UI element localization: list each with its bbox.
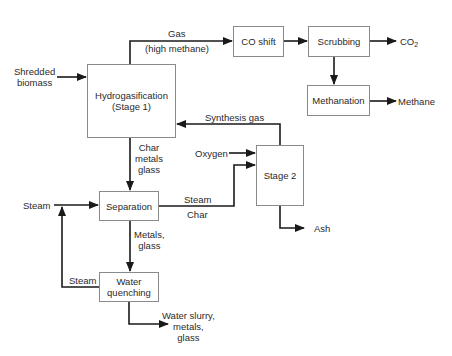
steam-recycle-label: Steam [69,275,96,286]
ash-label: Ash [314,223,330,234]
hydrogasification-box: Hydrogasification (Stage 1) [87,64,176,138]
flow-connectors [0,0,452,356]
hydrogasification-label-line2: (Stage 1) [95,101,168,112]
arrow-synthesis-gas [177,124,280,145]
char-metals-glass-label: Char metals glass [135,142,163,175]
synthesis-gas-label: Synthesis gas [205,112,264,123]
water-quenching-box: Water quenching [99,272,159,302]
high-methane-label: (high methane) [145,43,209,54]
co-shift-box: CO shift [233,26,284,57]
methanation-label: Methanation [312,95,364,106]
process-flow-diagram: Hydrogasification (Stage 1) CO shift Scr… [0,0,452,356]
separation-box: Separation [99,191,159,221]
hydrogasification-label-line1: Hydrogasification [95,90,168,101]
co-shift-label: CO shift [241,36,275,47]
scrubbing-label: Scrubbing [318,36,361,47]
co2-label: CO2 [400,36,418,50]
char-to-stage2-label: Char [187,209,208,220]
scrubbing-box: Scrubbing [308,26,370,57]
methanation-box: Methanation [307,85,370,116]
methane-label: Methane [398,96,435,107]
shredded-biomass-label: Shredded biomass [14,66,55,88]
separation-label: Separation [106,201,152,212]
water-slurry-label: Water slurry, metals, glass [162,310,215,343]
stage2-box: Stage 2 [256,145,304,206]
water-quenching-line2: quenching [107,287,151,298]
arrow-stage2-to-ash [280,206,304,228]
oxygen-label: Oxygen [195,148,228,159]
metals-glass-label: Metals, glass [134,229,165,251]
stage2-label: Stage 2 [264,170,297,181]
water-quenching-line1: Water [107,276,151,287]
steam-to-stage2-label: Steam [184,194,211,205]
steam-input-label: Steam [23,200,50,211]
gas-label: Gas [168,28,185,39]
